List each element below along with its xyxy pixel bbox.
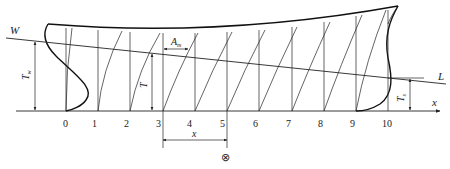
hull-diagram: Tw T Ts Am W L x 0 1 2 3 4 5 6 7 8 9 10 …	[0, 0, 450, 169]
midship-symbol: ⊗	[221, 151, 230, 163]
draft-mid-label: T	[138, 81, 149, 88]
sectional-area-curves	[66, 10, 386, 111]
svg-text:3: 3	[156, 118, 161, 129]
svg-text:8: 8	[318, 118, 323, 129]
svg-text:7: 7	[286, 118, 291, 129]
area-label: Am	[170, 36, 182, 48]
station-lines	[66, 10, 388, 148]
svg-text:2: 2	[124, 118, 129, 129]
station-numbers: 0 1 2 3 4 5 6 7 8 9 10	[63, 118, 392, 129]
svg-text:5: 5	[220, 118, 225, 129]
svg-text:10: 10	[382, 118, 392, 129]
waterline-l-label: L	[437, 70, 444, 82]
stern-profile	[45, 24, 89, 111]
draft-aft-label: Tw	[20, 70, 32, 80]
waterline-w-label: W	[10, 24, 20, 36]
draft-fore-label: Ts	[395, 93, 407, 102]
x-dimension-label: x	[191, 128, 197, 139]
waterline-wl	[6, 38, 446, 84]
x-axis-label: x	[431, 96, 437, 108]
svg-text:9: 9	[350, 118, 355, 129]
svg-text:0: 0	[63, 118, 68, 129]
deck-sheer-line	[48, 6, 398, 28]
svg-text:1: 1	[92, 118, 97, 129]
svg-text:6: 6	[253, 118, 258, 129]
bow-profile	[356, 6, 398, 111]
